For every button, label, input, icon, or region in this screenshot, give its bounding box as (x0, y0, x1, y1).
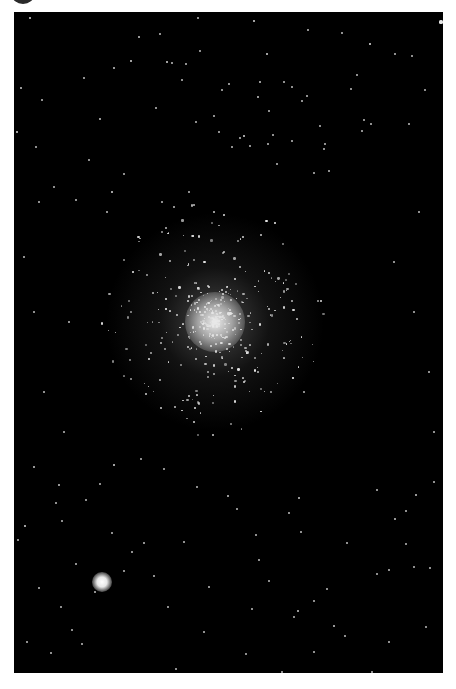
field-star (83, 77, 85, 79)
field-star (159, 33, 161, 35)
field-star (243, 135, 246, 138)
cluster-star (283, 282, 285, 284)
cluster-star (145, 344, 147, 346)
cluster-star (195, 358, 197, 360)
cluster-star (165, 227, 167, 229)
cluster-star (240, 238, 242, 240)
cluster-star (207, 302, 209, 304)
cluster-star (242, 377, 244, 379)
cluster-star (288, 273, 290, 275)
cluster-star (218, 325, 221, 328)
cluster-star (265, 220, 267, 222)
field-star (288, 512, 290, 514)
field-star (239, 137, 241, 139)
cluster-star (177, 334, 179, 336)
cluster-star (209, 335, 210, 336)
cluster-star (150, 352, 152, 354)
field-star (268, 110, 270, 112)
cluster-star (241, 301, 243, 303)
cluster-star (290, 343, 291, 344)
cluster-star (264, 270, 266, 272)
field-star (293, 616, 295, 618)
cluster-star (298, 366, 299, 367)
field-star (388, 569, 390, 571)
cluster-star (194, 407, 196, 409)
field-star (346, 542, 348, 544)
field-star (413, 311, 415, 313)
cluster-star (242, 236, 244, 238)
cluster-star (260, 411, 261, 412)
cluster-star (200, 292, 202, 294)
cluster-star (170, 288, 172, 290)
field-star (255, 534, 257, 536)
cluster-star (292, 377, 294, 379)
cluster-star (249, 344, 251, 346)
field-star (259, 81, 261, 83)
field-star (35, 146, 37, 148)
field-star (193, 204, 195, 206)
cluster-star (197, 302, 198, 303)
field-star (424, 89, 426, 91)
cluster-star (240, 329, 242, 331)
cluster-star (165, 277, 166, 278)
cluster-star (169, 260, 171, 262)
cluster-star (211, 312, 213, 314)
cluster-star (250, 312, 252, 314)
field-star (24, 525, 27, 528)
cluster-star (196, 348, 198, 350)
cluster-star (219, 312, 221, 314)
cluster-star (245, 271, 246, 272)
cluster-star (206, 324, 209, 327)
field-star (183, 541, 185, 543)
cluster-star (175, 295, 177, 297)
cluster-star (238, 322, 240, 324)
field-star (276, 163, 278, 165)
cluster-star (213, 395, 214, 396)
field-star (328, 170, 330, 172)
field-star (301, 100, 303, 102)
cluster-star (193, 326, 194, 327)
cluster-star (277, 277, 279, 279)
field-star (26, 641, 28, 643)
field-star (393, 261, 395, 263)
field-star (213, 115, 215, 117)
cluster-star (108, 330, 109, 331)
field-star (283, 81, 285, 83)
cluster-star (207, 376, 209, 378)
field-star (272, 134, 274, 136)
field-star (155, 107, 157, 109)
cluster-star (239, 266, 241, 268)
cluster-star (224, 363, 226, 365)
cluster-star (132, 271, 134, 273)
field-star (75, 563, 77, 565)
field-star (171, 62, 173, 64)
field-star (113, 464, 116, 467)
cluster-star (215, 350, 218, 353)
cluster-star (233, 315, 236, 318)
field-star (394, 53, 396, 55)
field-star (123, 570, 125, 572)
cluster-star (223, 214, 225, 216)
cluster-star (303, 391, 305, 393)
cluster-star (212, 310, 213, 311)
cluster-star (165, 298, 167, 300)
cluster-star (188, 395, 190, 397)
field-star (291, 140, 293, 142)
cluster-star (159, 379, 161, 381)
field-star (111, 191, 114, 194)
cluster-star (239, 313, 241, 315)
field-star (185, 63, 187, 65)
field-star (17, 539, 19, 541)
cluster-star (261, 353, 263, 355)
cluster-star (237, 368, 240, 371)
cluster-star (174, 406, 176, 408)
cluster-star (197, 401, 199, 403)
cluster-star (257, 371, 259, 373)
cluster-star (268, 272, 270, 274)
cluster-star (204, 363, 206, 365)
field-star (415, 494, 417, 496)
cluster-star (217, 314, 218, 315)
cluster-star (187, 315, 189, 317)
cluster-star (192, 235, 194, 237)
field-star (94, 591, 96, 593)
